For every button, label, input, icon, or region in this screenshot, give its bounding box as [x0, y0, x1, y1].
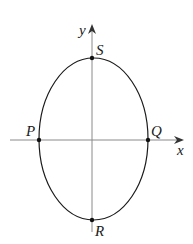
y-axis-label: y — [77, 22, 86, 38]
point-r — [90, 218, 94, 222]
label-p: P — [25, 123, 35, 139]
label-q: Q — [151, 123, 162, 139]
ellipse-curve — [39, 58, 148, 220]
point-q — [146, 138, 150, 142]
point-p — [37, 138, 41, 142]
label-r: R — [94, 223, 104, 239]
ellipse-diagram: y x S P Q R — [0, 0, 193, 244]
point-s — [90, 56, 94, 60]
label-s: S — [96, 42, 104, 58]
x-axis-label: x — [176, 142, 184, 158]
